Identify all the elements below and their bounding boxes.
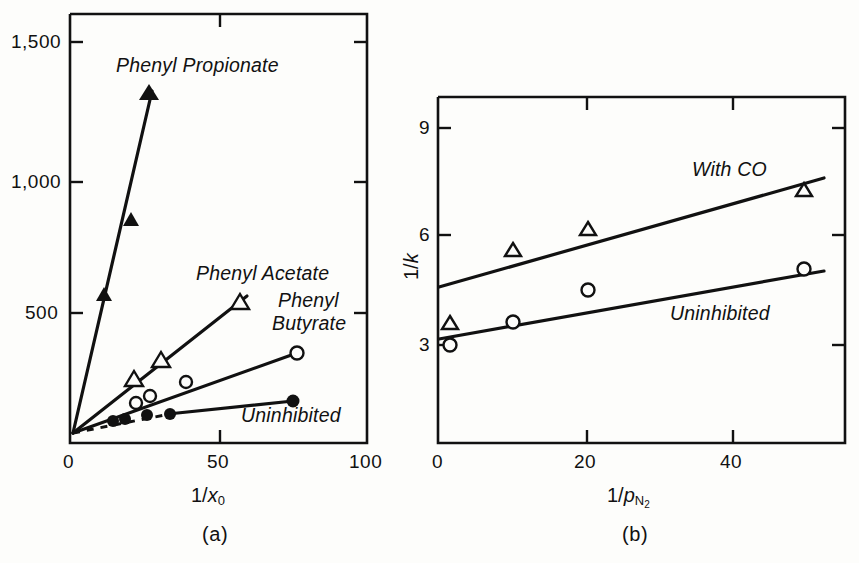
panel-b-xticklabel-0: 0 [432,451,443,473]
panel-b-xaxis-title-sub: N2 [635,493,650,508]
figure-container: 1,500 1,000 500 0 50 100 1/x0 Phenyl Pro… [0,0,859,563]
panel-b-point-withco-1 [442,316,458,329]
panel-b-xaxis-title-var: p [624,484,635,506]
panel-b-point-uninhibited-3 [582,284,595,297]
panel-b-xticklabel-20: 20 [574,451,596,473]
panel-b-xticklabel-40: 40 [720,451,742,473]
panel-b-caption: (b) [622,523,648,546]
panel-b-line-with-co [439,178,824,287]
panel-b-point-uninhibited-4 [798,263,811,276]
panel-b-point-uninhibited-1 [444,339,457,352]
panel-b-label-uninhibited: Uninhibited [670,302,770,325]
panel-b-point-withco-3 [580,222,596,235]
panel-b-yticklabel-6: 6 [419,224,430,246]
panel-b-xaxis-title: 1/pN2 [607,484,650,510]
panel-b-graphics [0,0,859,563]
panel-b-point-uninhibited-2 [507,316,520,329]
panel-b-yticklabel-9: 9 [419,117,430,139]
panel-b-yaxis-title-var: k [400,253,422,263]
panel-b: 9 6 3 0 20 40 1/k 1/pN2 With CO Uninhibi… [0,0,859,563]
panel-b-yaxis-title: 1/k [400,253,423,280]
panel-b-yticklabel-3: 3 [419,334,430,356]
panel-b-xaxis-title-sub2: 2 [644,499,650,510]
panel-b-point-withco-2 [505,243,521,256]
panel-b-xaxis-title-main: 1/p [607,484,635,506]
panel-b-label-with-co: With CO [692,158,767,181]
